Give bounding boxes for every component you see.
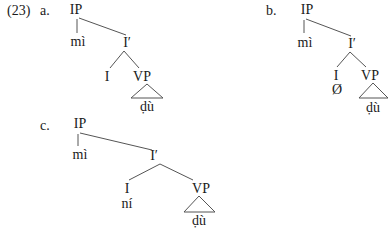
tree-b-vp-content: ḍù bbox=[366, 101, 380, 115]
branch-ip-bar-b bbox=[306, 19, 351, 36]
tree-a-ibar: I′ bbox=[123, 36, 131, 50]
triangle-a bbox=[131, 84, 163, 98]
branch-bar-comp-c bbox=[160, 164, 193, 180]
tree-c-head: I bbox=[125, 182, 130, 196]
tree-c-head-content: ní bbox=[122, 197, 133, 211]
tree-b-label: b. bbox=[266, 4, 277, 18]
branch-bar-head-a bbox=[110, 51, 124, 68]
tree-a-vp: VP bbox=[133, 70, 151, 84]
tree-a-vp-content: ḍù bbox=[140, 100, 154, 114]
tree-c-vp-content: ḍù bbox=[192, 214, 206, 228]
tree-b-head: I bbox=[334, 69, 339, 83]
tree-c-spec: mì bbox=[73, 148, 88, 162]
triangle-b bbox=[359, 83, 388, 98]
tree-b-spec: mì bbox=[298, 36, 313, 50]
tree-c-root-ip: IP bbox=[74, 117, 86, 131]
branch-bar-comp-a bbox=[124, 51, 139, 68]
triangle-c bbox=[184, 196, 215, 212]
branch-bar-comp-b bbox=[350, 52, 366, 67]
branch-bar-head-b bbox=[337, 52, 350, 67]
tree-a-head: I bbox=[105, 70, 110, 84]
tree-b-root-ip: IP bbox=[301, 3, 313, 17]
tree-c-vp: VP bbox=[192, 182, 210, 196]
tree-c-ibar: I′ bbox=[150, 149, 158, 163]
tree-a-root-ip: IP bbox=[70, 3, 82, 17]
tree-a-label: a. bbox=[40, 4, 50, 18]
tree-b-head-content: Ø bbox=[332, 83, 342, 97]
tree-b-vp: VP bbox=[361, 69, 379, 83]
branch-ip-bar-c bbox=[80, 133, 152, 150]
tree-b-ibar: I′ bbox=[348, 37, 356, 51]
branch-ip-bar-a bbox=[79, 18, 126, 35]
tree-a-spec: mì bbox=[71, 35, 86, 49]
tree-c-label: c. bbox=[40, 119, 50, 133]
branch-bar-head-c bbox=[129, 164, 160, 180]
example-number: (23) bbox=[7, 4, 30, 18]
